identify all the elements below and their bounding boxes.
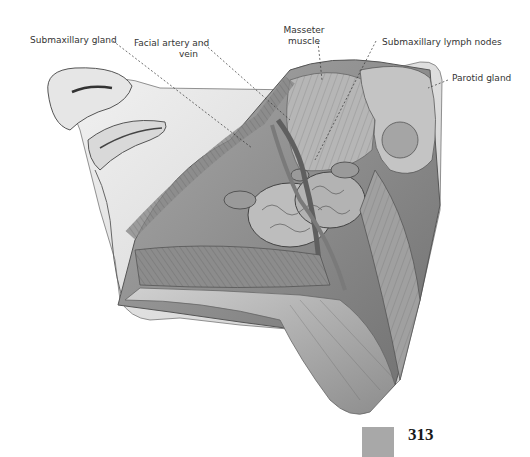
label-parotid-gland: Parotid gland — [452, 73, 511, 84]
label-line: vein — [134, 49, 198, 60]
label-line: Masseter — [280, 25, 328, 36]
label-submaxillary-lymph-nodes: Submaxillary lymph nodes — [382, 37, 502, 48]
label-line: Facial artery and — [134, 38, 198, 49]
label-masseter-muscle: Masseter muscle — [280, 25, 328, 47]
page-number: 313 — [408, 425, 434, 445]
label-facial-artery-and-vein: Facial artery and vein — [134, 38, 198, 60]
page-color-swatch — [362, 427, 394, 457]
label-line: muscle — [280, 36, 328, 47]
leader-lines — [0, 0, 530, 457]
label-submaxillary-gland: Submaxillary gland — [30, 35, 117, 46]
